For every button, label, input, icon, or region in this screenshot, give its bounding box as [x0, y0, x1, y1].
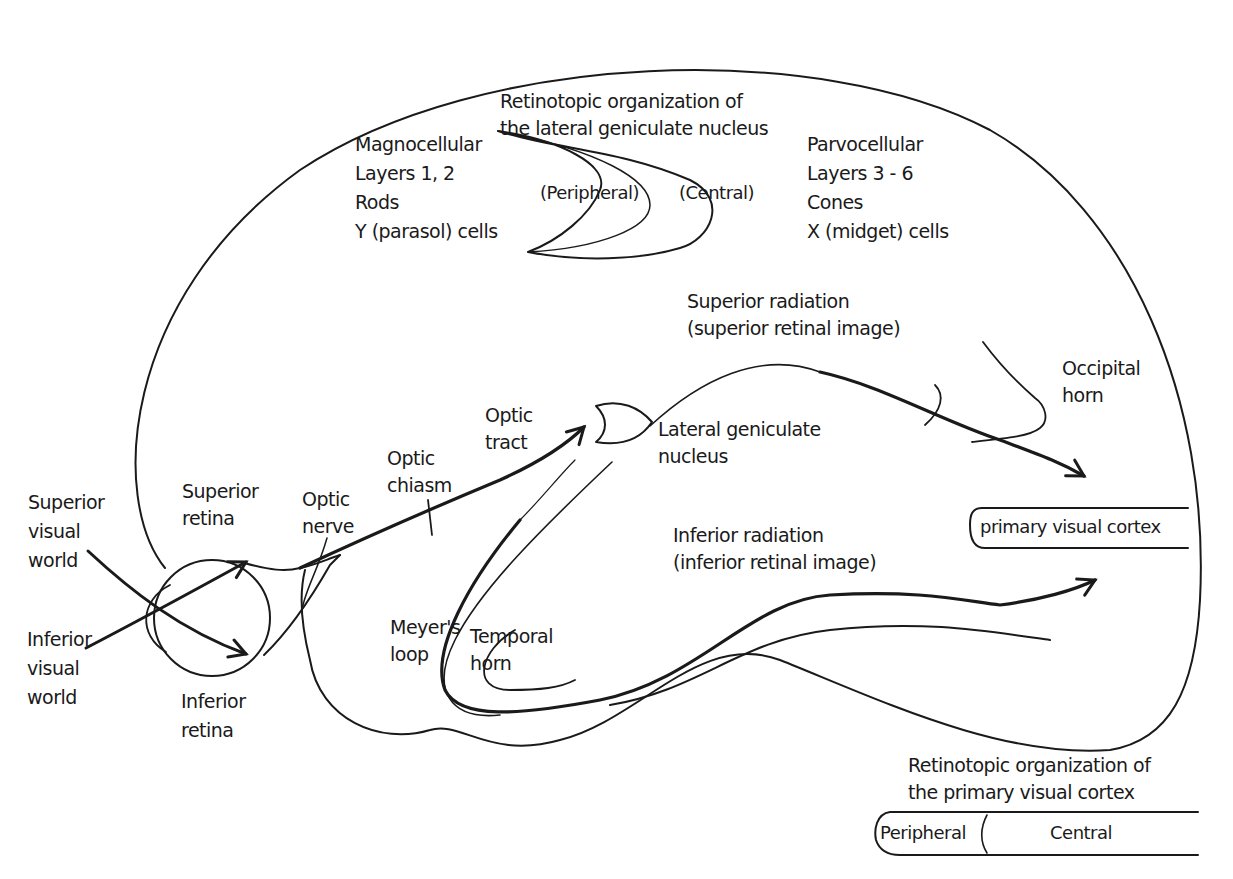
optic-nerve-label: Optic nerve [302, 486, 354, 540]
primary-visual-cortex-label: primary visual cortex [980, 516, 1161, 537]
parvocellular-label: Parvocellular Layers 3 - 6 Cones X (midg… [807, 130, 949, 246]
inferior-radiation-label: Inferior radiation (inferior retinal ima… [673, 522, 876, 576]
inferior-visual-world-label: Inferior visual world [27, 625, 92, 712]
optic-nerve-tick [302, 538, 327, 610]
occipital-horn [972, 342, 1045, 442]
v1-central-label: Central [1050, 822, 1112, 843]
occipital-horn-label: Occipital horn [1062, 355, 1140, 409]
superior-retina-label: Superior retina [182, 478, 258, 532]
superior-visual-world-label: Superior visual world [28, 488, 104, 575]
lgn-peripheral-label: (Peripheral) [540, 182, 639, 203]
lgn-central-label: (Central) [679, 182, 754, 203]
inferior-radiation-upper [610, 626, 1050, 705]
v1-retinotopic-title: Retinotopic organization of the primary … [908, 752, 1150, 806]
optic-chiasm-tick [428, 500, 432, 535]
meyers-loop-label: Meyer's loop [390, 614, 460, 668]
optic-tract-label: Optic tract [485, 402, 533, 456]
superior-visual-world-arrow [88, 551, 246, 654]
lgn-connector [520, 460, 575, 520]
superior-radiation-tick [925, 385, 941, 425]
inferior-visual-world-arrow [86, 562, 246, 648]
temporal-horn-label: Temporal horn [470, 623, 553, 677]
superior-radiation-label: Superior radiation (superior retinal ima… [687, 288, 900, 342]
v1-divider [982, 815, 987, 853]
inferior-retina-label: Inferior retina [181, 687, 246, 745]
lgn-shape [596, 403, 652, 443]
magnocellular-label: Magnocellular Layers 1, 2 Rods Y (paraso… [355, 130, 498, 246]
v1-peripheral-label: Peripheral [880, 822, 966, 843]
optic-chiasm-label: Optic chiasm [387, 445, 452, 499]
lgn-retinotopic-title: Retinotopic organization of the lateral … [500, 88, 768, 142]
lateral-geniculate-nucleus-label: Lateral geniculate nucleus [658, 416, 821, 470]
